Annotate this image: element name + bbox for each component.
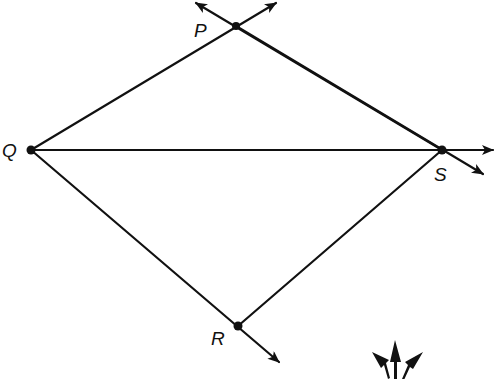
diagram-canvas: P Q S R (0, 0, 495, 379)
triple-arrow-icon (372, 340, 423, 379)
label-Q: Q (2, 140, 17, 161)
label-P: P (194, 20, 207, 41)
ray-QR (31, 150, 279, 362)
label-S: S (434, 164, 447, 185)
label-R: R (211, 328, 225, 349)
point-S (438, 146, 447, 155)
geometry-figure: P Q S R (0, 0, 495, 379)
point-R (234, 322, 243, 331)
point-P (232, 22, 240, 30)
segment-RS (238, 150, 442, 326)
point-Q (27, 146, 36, 155)
